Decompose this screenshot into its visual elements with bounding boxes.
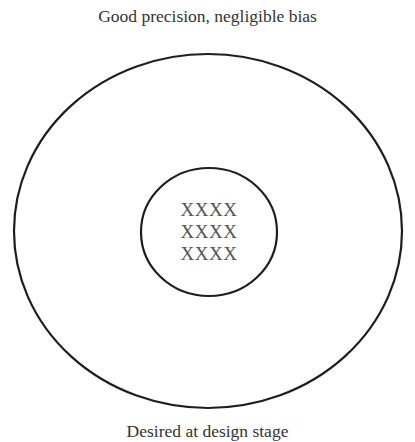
diagram-caption: Desired at design stage bbox=[0, 421, 415, 442]
hit-row: XXXX bbox=[160, 243, 258, 265]
hit-row: XXXX bbox=[160, 221, 258, 243]
hit-cluster: XXXX XXXX XXXX bbox=[160, 199, 258, 265]
hit-row: XXXX bbox=[160, 199, 258, 221]
